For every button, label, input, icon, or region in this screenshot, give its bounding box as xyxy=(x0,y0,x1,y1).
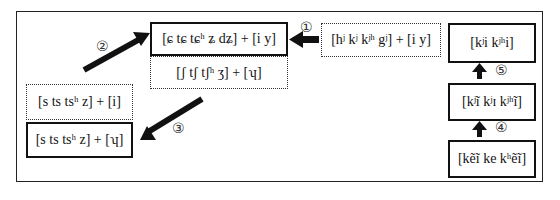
box-dental-i: [s ts tsʰ z] + [i] xyxy=(26,84,133,120)
box-stage-top: [kʲi kʲʰi] xyxy=(448,23,536,63)
box-postalveolar: [ʃ tʃ tʃʰ ʒ] + [ʮ] xyxy=(150,56,288,89)
box-postalveolar-label: [ʃ tʃ tʃʰ ʒ] + [ʮ] xyxy=(176,65,261,81)
box-dental-i-label: [s ts tsʰ z] + [i] xyxy=(38,94,121,110)
box-dental-apical: [s ts tsʰ z] + [ʮ] xyxy=(26,122,133,158)
box-stage-top-label: [kʲi kʲʰi] xyxy=(470,35,513,51)
box-stage-bottom-label: [kẽĩ ke kʰẽĩ] xyxy=(458,151,526,167)
box-stage-bottom: [kẽĩ ke kʰẽĩ] xyxy=(448,140,536,178)
arrow-2-label: ② xyxy=(96,38,109,54)
arrow-4-up-icon xyxy=(472,121,487,137)
arrow-3-down-left-icon xyxy=(140,99,202,140)
box-velar-palatalized-label: [hʲ kʲ kʲʰ gʲ] + [i y] xyxy=(331,32,431,48)
arrow-5-label: ⑤ xyxy=(495,62,508,78)
arrow-1-label: ① xyxy=(300,19,313,35)
box-stage-mid-label: [kʲĩ kʲɪ kʲʰĩ] xyxy=(462,94,522,110)
arrow-2-up-right-icon xyxy=(84,32,150,70)
arrow-5-up-icon xyxy=(472,63,487,79)
arrow-3-label: ③ xyxy=(172,120,185,136)
box-stage-mid: [kʲĩ kʲɪ kʲʰĩ] xyxy=(448,83,536,121)
arrow-4-label: ④ xyxy=(495,119,508,135)
box-dental-apical-label: [s ts tsʰ z] + [ʮ] xyxy=(36,132,124,148)
box-palatal-label: [ɕ tɕ tɕʰ ʑ dʑ] + [i y] xyxy=(162,31,276,47)
box-velar-palatalized: [hʲ kʲ kʲʰ gʲ] + [i y] xyxy=(321,23,441,57)
box-palatal: [ɕ tɕ tɕʰ ʑ dʑ] + [i y] xyxy=(150,22,288,56)
